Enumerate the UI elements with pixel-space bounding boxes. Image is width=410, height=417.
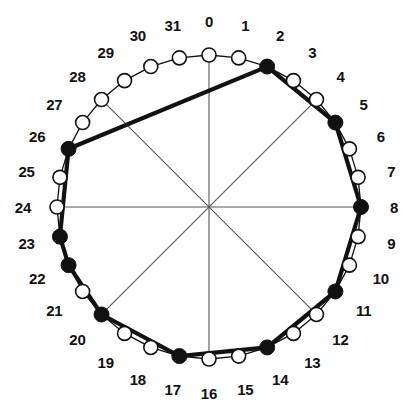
index-label-2: 2 [276, 28, 284, 43]
point-marker-22-filled[interactable] [61, 258, 76, 273]
figure-canvas: 0123456789101112131415161718192021222324… [0, 0, 410, 417]
index-label-3: 3 [308, 45, 316, 60]
index-label-0: 0 [205, 14, 213, 29]
point-marker-12-open[interactable] [309, 307, 323, 321]
point-marker-2-filled[interactable] [260, 59, 275, 74]
index-label-28: 28 [69, 68, 85, 83]
index-label-17: 17 [165, 382, 181, 397]
point-marker-27-open[interactable] [76, 116, 90, 130]
index-label-14: 14 [272, 371, 288, 386]
point-marker-28-open[interactable] [95, 93, 109, 107]
index-label-25: 25 [18, 163, 34, 178]
point-marker-16-open[interactable] [202, 352, 216, 366]
index-label-30: 30 [130, 28, 146, 43]
point-marker-8-filled[interactable] [354, 200, 369, 215]
point-marker-1-open[interactable] [232, 51, 246, 65]
index-label-13: 13 [304, 354, 320, 369]
index-label-11: 11 [356, 303, 371, 318]
index-label-15: 15 [237, 382, 253, 397]
point-marker-5-filled[interactable] [328, 115, 343, 130]
index-label-24: 24 [15, 200, 31, 215]
point-marker-25-open[interactable] [53, 170, 67, 184]
point-marker-29-open[interactable] [118, 74, 132, 88]
point-marker-9-open[interactable] [351, 230, 365, 244]
point-marker-7-open[interactable] [351, 170, 365, 184]
index-label-26: 26 [29, 128, 45, 143]
index-label-12: 12 [332, 331, 348, 346]
index-label-22: 22 [29, 271, 45, 286]
index-label-4: 4 [336, 68, 344, 83]
index-label-18: 18 [130, 371, 146, 386]
index-label-16: 16 [201, 386, 217, 401]
index-label-20: 20 [69, 331, 85, 346]
point-marker-23-filled[interactable] [52, 229, 67, 244]
point-marker-0-open[interactable] [202, 48, 216, 62]
point-marker-6-open[interactable] [342, 142, 356, 156]
point-marker-24-open[interactable] [50, 200, 64, 214]
point-marker-3-open[interactable] [286, 74, 300, 88]
index-label-31: 31 [165, 17, 181, 32]
point-marker-30-open[interactable] [144, 60, 158, 74]
point-marker-15-open[interactable] [232, 349, 246, 363]
point-marker-21-open[interactable] [76, 284, 90, 298]
point-marker-10-open[interactable] [342, 258, 356, 272]
index-label-9: 9 [387, 236, 395, 251]
index-label-1: 1 [241, 17, 249, 32]
point-marker-31-open[interactable] [172, 51, 186, 65]
index-label-29: 29 [98, 45, 114, 60]
index-label-21: 21 [46, 303, 62, 318]
index-label-27: 27 [46, 96, 62, 111]
point-marker-17-filled[interactable] [172, 349, 187, 364]
point-marker-26-filled[interactable] [61, 141, 76, 156]
point-marker-4-open[interactable] [309, 93, 323, 107]
point-marker-19-open[interactable] [118, 326, 132, 340]
point-marker-14-filled[interactable] [260, 340, 275, 355]
index-label-23: 23 [18, 236, 34, 251]
index-label-8: 8 [390, 200, 398, 215]
point-marker-20-filled[interactable] [94, 307, 109, 322]
index-label-19: 19 [98, 354, 114, 369]
index-label-7: 7 [387, 163, 395, 178]
circular-diagram-svg [0, 0, 410, 417]
index-label-6: 6 [377, 128, 385, 143]
index-label-10: 10 [373, 271, 389, 286]
point-marker-13-open[interactable] [286, 326, 300, 340]
point-marker-18-open[interactable] [144, 340, 158, 354]
index-label-5: 5 [360, 96, 368, 111]
point-marker-11-filled[interactable] [328, 284, 343, 299]
